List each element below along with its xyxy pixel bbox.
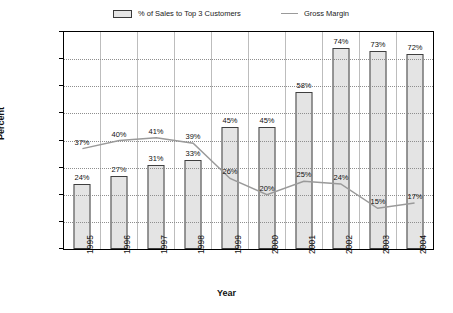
y-axis-title: Percent bbox=[0, 107, 6, 140]
chart-container: % of Sales to Top 3 Customers Gross Marg… bbox=[0, 0, 453, 313]
line-value-label: 17% bbox=[407, 192, 422, 201]
line-value-label: 15% bbox=[370, 197, 385, 206]
legend-item-gross-margin: Gross Margin bbox=[281, 9, 349, 18]
line-value-label: 40% bbox=[111, 130, 126, 139]
line-value-label: 26% bbox=[222, 167, 237, 176]
line-value-label: 39% bbox=[185, 132, 200, 141]
line-value-label: 24% bbox=[333, 173, 348, 182]
chart-legend: % of Sales to Top 3 Customers Gross Marg… bbox=[0, 8, 453, 24]
line-value-label: 37% bbox=[74, 138, 89, 147]
legend-swatch-line-icon bbox=[281, 13, 298, 14]
legend-item-sales: % of Sales to Top 3 Customers bbox=[113, 9, 241, 18]
legend-label-gross-margin: Gross Margin bbox=[304, 9, 349, 18]
legend-swatch-bar-icon bbox=[113, 10, 132, 18]
line-value-label: 20% bbox=[259, 184, 274, 193]
line-value-label: 41% bbox=[148, 127, 163, 136]
line-value-label: 25% bbox=[296, 170, 311, 179]
x-axis-title: Year bbox=[0, 288, 453, 298]
legend-label-sales: % of Sales to Top 3 Customers bbox=[138, 9, 241, 18]
gross-margin-line bbox=[64, 32, 433, 249]
plot-area: 24%37%27%40%31%41%33%39%45%26%45%20%58%2… bbox=[63, 31, 434, 250]
gross-margin-polyline bbox=[82, 138, 414, 209]
